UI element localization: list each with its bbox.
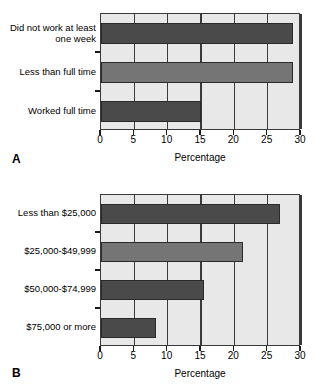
- x-tick-label: 15: [185, 350, 215, 362]
- x-tick-label: 30: [285, 134, 315, 146]
- category-label: $50,000-$74,999: [0, 283, 96, 294]
- category-label: $75,000 or more: [0, 321, 96, 332]
- plot-area-b: [100, 194, 300, 346]
- x-tick-label: 5: [118, 134, 148, 146]
- x-axis-title-a: Percentage: [100, 152, 300, 163]
- panel-b: Less than $25,000$25,000-$49,999$50,000-…: [0, 186, 318, 390]
- category-label: $25,000-$49,999: [0, 245, 96, 256]
- x-axis-title-b: Percentage: [100, 368, 300, 379]
- bar: [101, 101, 201, 121]
- bar: [101, 280, 204, 300]
- panel-letter-a: A: [12, 152, 21, 166]
- y-minor-tick: [95, 51, 100, 53]
- panel-a: Did not work at least one weekLess than …: [0, 0, 318, 180]
- x-tick-label: 10: [152, 350, 182, 362]
- category-label: Did not work at least one week: [0, 22, 96, 44]
- y-minor-tick: [95, 231, 100, 233]
- x-tick-label: 0: [85, 350, 115, 362]
- x-tick-label: 5: [118, 350, 148, 362]
- x-tick-label: 25: [252, 134, 282, 146]
- figure-two-bar-charts: Did not work at least one weekLess than …: [0, 0, 318, 390]
- y-minor-tick: [95, 307, 100, 309]
- x-tick-label: 20: [218, 134, 248, 146]
- y-minor-tick: [95, 269, 100, 271]
- bar: [101, 62, 293, 82]
- x-tick-label: 25: [252, 350, 282, 362]
- panel-letter-b: B: [12, 366, 21, 380]
- category-label: Less than $25,000: [0, 207, 96, 218]
- bar: [101, 23, 293, 43]
- x-tick-label: 10: [152, 134, 182, 146]
- plot-area-a: [100, 13, 300, 130]
- category-label: Less than full time: [0, 66, 96, 77]
- gridline: [300, 14, 302, 129]
- y-minor-tick: [95, 90, 100, 92]
- bar: [101, 242, 243, 262]
- x-tick-label: 0: [85, 134, 115, 146]
- x-tick-label: 20: [218, 350, 248, 362]
- gridline: [300, 195, 302, 345]
- x-tick-label: 15: [185, 134, 215, 146]
- category-label: Worked full time: [0, 105, 96, 116]
- bar: [101, 318, 156, 338]
- bar: [101, 204, 280, 224]
- x-tick-label: 30: [285, 350, 315, 362]
